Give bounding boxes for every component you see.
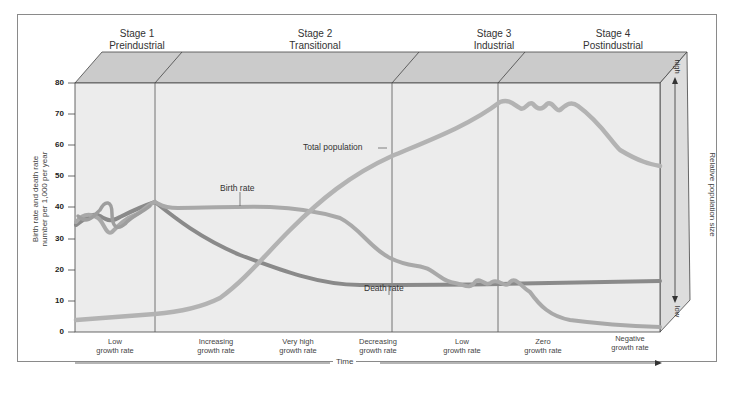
phase-label: Decreasinggrowth rate: [333, 337, 423, 355]
y-ticks: [68, 83, 75, 332]
right-axis-high: high: [673, 59, 682, 73]
stage-3-title: Stage 3Industrial: [434, 28, 554, 52]
x-axis-title: Time: [333, 357, 356, 366]
y-tick-label: 10: [44, 296, 64, 305]
death-rate-label: Death rate: [364, 283, 404, 293]
phase-label: Lowgrowth rate: [417, 337, 507, 355]
phase-label: Very highgrowth rate: [253, 337, 343, 355]
y-tick-label: 0: [44, 327, 64, 336]
right-axis-title: Relative population size: [708, 135, 717, 255]
phase-label: Increasinggrowth rate: [171, 337, 261, 355]
birth-rate-label: Birth rate: [220, 183, 255, 193]
y-axis-title: Birth rate and death ratenumber per 1,00…: [31, 129, 49, 269]
stage-4-title: Stage 4Postindustrial: [553, 28, 673, 52]
stage-1-title: Stage 1Preindustrial: [77, 28, 197, 52]
phase-label: Negativegrowth rate: [585, 334, 675, 352]
stage-2-title: Stage 2Transitional: [255, 28, 375, 52]
y-tick-label: 70: [44, 109, 64, 118]
right-axis-low: low: [673, 306, 682, 317]
phase-label: Lowgrowth rate: [70, 337, 160, 355]
y-tick-label: 80: [44, 78, 64, 87]
top-face: [75, 52, 687, 83]
total-population-label: Total population: [303, 142, 363, 152]
phase-label: Zerogrowth rate: [498, 337, 588, 355]
